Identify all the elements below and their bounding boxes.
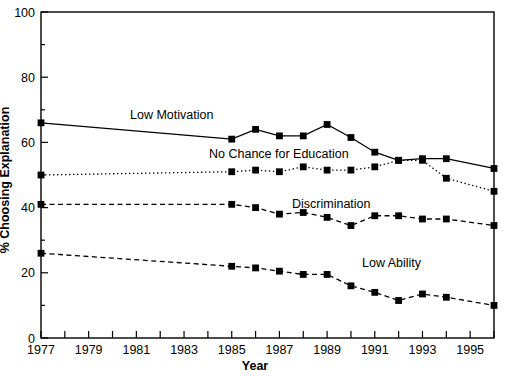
x-tick-label: 1983 [170, 343, 198, 357]
y-tick-label: 40 [21, 201, 35, 215]
data-point-marker [443, 294, 450, 301]
x-tick-label: 1985 [218, 343, 246, 357]
data-point-marker [324, 121, 331, 128]
data-point-marker [348, 134, 355, 141]
data-point-marker [252, 265, 259, 272]
data-point-marker [228, 263, 235, 270]
x-tick-label: 1991 [361, 343, 389, 357]
data-point-marker [324, 214, 331, 221]
series-annotation: Low Motivation [130, 108, 213, 122]
series-annotation: Low Ability [362, 256, 422, 270]
data-point-marker [276, 132, 283, 139]
data-point-marker [491, 188, 498, 195]
data-point-marker [38, 250, 45, 257]
y-tick-label: 100 [14, 6, 35, 20]
data-point-marker [38, 201, 45, 208]
data-point-marker [38, 172, 45, 179]
data-point-marker [228, 201, 235, 208]
data-point-marker [419, 216, 426, 223]
data-point-marker [300, 163, 307, 170]
data-point-marker [419, 157, 426, 164]
x-tick-label: 1987 [266, 343, 294, 357]
x-tick-label: 1981 [122, 343, 150, 357]
data-point-marker [371, 149, 378, 156]
x-tick-label: 1995 [456, 343, 484, 357]
x-tick-label: 1977 [27, 343, 55, 357]
data-point-marker [300, 271, 307, 278]
y-axis-title: % Choosing Explanation [0, 107, 12, 254]
data-point-marker [395, 157, 402, 164]
data-point-marker [276, 168, 283, 175]
chart-figure: 020406080100 197719791981198319851987198… [0, 0, 510, 379]
y-tick-label: 60 [21, 136, 35, 150]
data-point-marker [443, 155, 450, 162]
chart-background [0, 0, 510, 379]
data-point-marker [491, 302, 498, 309]
data-point-marker [252, 204, 259, 211]
series-annotation: Discrimination [292, 197, 371, 211]
data-point-marker [324, 271, 331, 278]
data-point-marker [395, 212, 402, 219]
data-point-marker [276, 268, 283, 275]
data-point-marker [371, 289, 378, 296]
x-tick-label: 1993 [409, 343, 437, 357]
x-axis-title: Year [242, 359, 269, 373]
line-chart: 020406080100 197719791981198319851987198… [0, 0, 510, 379]
data-point-marker [276, 211, 283, 218]
data-point-marker [443, 216, 450, 223]
data-point-marker [491, 222, 498, 229]
series-annotation: No Chance for Education [209, 147, 349, 161]
x-tick-label: 1989 [313, 343, 341, 357]
data-point-marker [348, 222, 355, 229]
data-point-marker [228, 136, 235, 143]
data-point-marker [252, 167, 259, 174]
data-point-marker [38, 119, 45, 126]
data-point-marker [371, 163, 378, 170]
y-tick-label: 80 [21, 71, 35, 85]
data-point-marker [348, 167, 355, 174]
data-point-marker [228, 168, 235, 175]
x-tick-label: 1979 [75, 343, 103, 357]
data-point-marker [300, 132, 307, 139]
data-point-marker [419, 291, 426, 298]
data-point-marker [348, 282, 355, 289]
y-tick-label: 20 [21, 266, 35, 280]
data-point-marker [252, 126, 259, 133]
data-point-marker [443, 175, 450, 182]
data-point-marker [324, 167, 331, 174]
data-point-marker [371, 212, 378, 219]
data-point-marker [395, 297, 402, 304]
data-point-marker [491, 165, 498, 172]
